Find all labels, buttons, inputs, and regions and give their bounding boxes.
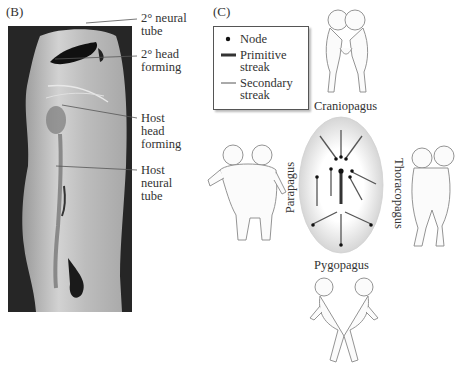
annotation-secondary-head-forming: 2° head forming [141,48,181,74]
label-craniopagus: Craniopagus [314,99,377,114]
label-pygopagus: Pygopagus [314,258,369,273]
thoracopagus-figure [412,146,454,246]
annotation-host-neural-tube: Host neural tube [141,164,172,203]
streak-oval-diagram [296,114,386,256]
craniopagus-figure [326,10,367,92]
label-thoracopagus: Thoracopagus [391,154,406,234]
leader-lines [0,0,230,368]
pygopagus-figure [310,278,378,362]
annotation-secondary-neural-tube: 2° neural tube [141,12,187,38]
parapagus-figure [208,145,286,240]
label-parapagus: Parapagus [283,153,298,223]
annotation-host-head-forming: Host head forming [141,112,181,151]
